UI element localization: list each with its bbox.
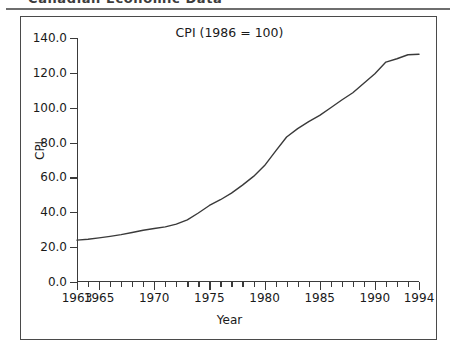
y-tick-mark xyxy=(70,38,77,39)
x-tick-mark xyxy=(88,282,89,287)
x-tick-mark xyxy=(386,282,387,287)
x-tick-mark xyxy=(364,282,365,287)
y-tick-mark xyxy=(70,282,77,283)
x-tick-mark xyxy=(331,282,332,287)
x-tick-mark xyxy=(121,282,122,287)
x-tick-mark xyxy=(309,282,310,287)
x-tick-mark xyxy=(287,282,288,287)
x-tick-label: 1970 xyxy=(139,291,170,305)
x-tick-mark xyxy=(143,282,144,287)
y-tick-label: 120.0 xyxy=(33,66,67,80)
x-tick-mark xyxy=(242,282,243,287)
y-tick-label: 20.0 xyxy=(40,240,67,254)
data-series-cpi xyxy=(77,38,419,282)
x-tick-mark xyxy=(353,282,354,287)
x-tick-mark xyxy=(397,282,398,287)
x-tick-mark xyxy=(254,282,255,287)
x-tick-mark xyxy=(408,282,409,287)
x-tick-mark xyxy=(209,282,210,290)
y-tick-label: 0.0 xyxy=(48,275,67,289)
y-tick-label: 40.0 xyxy=(40,205,67,219)
x-tick-mark xyxy=(176,282,177,287)
figure-frame: CPI (1986 = 100) CPI Year 0.020.040.060.… xyxy=(20,16,437,340)
x-tick-mark xyxy=(342,282,343,287)
x-tick-label: 1965 xyxy=(84,291,115,305)
y-tick-label: 100.0 xyxy=(33,101,67,115)
x-tick-label: 1994 xyxy=(404,291,435,305)
x-tick-label: 1985 xyxy=(304,291,335,305)
x-tick-mark xyxy=(187,282,188,287)
x-tick-mark xyxy=(320,282,321,290)
x-tick-mark xyxy=(110,282,111,287)
x-tick-mark xyxy=(99,282,100,290)
x-tick-mark xyxy=(220,282,221,287)
y-tick-mark xyxy=(70,143,77,144)
y-tick-mark xyxy=(70,177,77,178)
y-tick-mark xyxy=(70,212,77,213)
plot-area: 0.020.040.060.080.0100.0120.0140.0 19631… xyxy=(77,38,419,282)
x-tick-mark xyxy=(132,282,133,287)
page-header-text: Canadian Economic Data xyxy=(28,0,428,5)
x-tick-mark xyxy=(165,282,166,287)
x-tick-label: 1980 xyxy=(249,291,280,305)
y-tick-label: 80.0 xyxy=(40,136,67,150)
x-tick-mark xyxy=(154,282,155,290)
x-tick-mark xyxy=(198,282,199,287)
header-divider xyxy=(6,8,450,10)
x-tick-label: 1975 xyxy=(194,291,225,305)
x-tick-mark xyxy=(77,282,78,290)
x-tick-mark xyxy=(375,282,376,290)
x-tick-mark xyxy=(298,282,299,287)
x-tick-mark xyxy=(419,282,420,290)
x-tick-label: 1990 xyxy=(360,291,391,305)
x-tick-mark xyxy=(231,282,232,287)
y-tick-label: 140.0 xyxy=(33,31,67,45)
x-tick-mark xyxy=(265,282,266,290)
x-axis-label: Year xyxy=(21,313,438,327)
x-tick-mark xyxy=(276,282,277,287)
y-tick-mark xyxy=(70,108,77,109)
y-tick-mark xyxy=(70,73,77,74)
y-tick-label: 60.0 xyxy=(40,170,67,184)
y-tick-mark xyxy=(70,247,77,248)
